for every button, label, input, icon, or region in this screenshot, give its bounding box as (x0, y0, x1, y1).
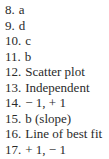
answer-number: 8. (5, 2, 15, 18)
answer-text: b (slope) (25, 111, 71, 126)
answer-text: b (25, 49, 32, 64)
answer-text: + 1, − 1 (25, 142, 66, 157)
answer-item: 14.− 1, + 1 (5, 95, 109, 111)
answer-item: 11.b (5, 49, 109, 65)
answer-text: d (19, 18, 26, 33)
answer-number: 17. (5, 142, 21, 158)
answer-item: 15.b (slope) (5, 111, 109, 127)
answer-item: 8.a (5, 2, 109, 18)
answer-number: 9. (5, 18, 15, 34)
answer-text: Line of best fit (25, 126, 102, 141)
answer-item: 12.Scatter plot (5, 64, 109, 80)
answer-number: 16. (5, 126, 21, 142)
answer-text: a (19, 2, 25, 17)
answer-number: 10. (5, 33, 21, 49)
answer-item: 17.+ 1, − 1 (5, 142, 109, 158)
answer-number: 14. (5, 95, 21, 111)
answer-list: 8.a 9.d 10.c 11.b 12.Scatter plot 13.Ind… (0, 0, 109, 157)
answer-number: 11. (5, 49, 21, 65)
answer-text: − 1, + 1 (25, 95, 66, 110)
answer-item: 10.c (5, 33, 109, 49)
answer-text: Scatter plot (25, 64, 85, 79)
answer-item: 16.Line of best fit (5, 126, 109, 142)
answer-text: Independent (25, 80, 89, 95)
answer-item: 9.d (5, 18, 109, 34)
answer-number: 13. (5, 80, 21, 96)
answer-text: c (25, 33, 31, 48)
answer-number: 12. (5, 64, 21, 80)
answer-item: 13.Independent (5, 80, 109, 96)
answer-number: 15. (5, 111, 21, 127)
